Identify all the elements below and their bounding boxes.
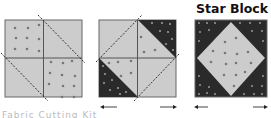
step-2-left-arrow — [100, 105, 117, 109]
quilt-diagram — [0, 0, 271, 118]
caption-text: Fabric Cutting Kit — [2, 110, 97, 118]
step-1-block — [1, 15, 85, 101]
step-3-block — [195, 20, 267, 97]
step-2-right-arrow — [160, 105, 177, 109]
step-2-block — [96, 15, 179, 101]
step-3-left-arrow — [194, 105, 208, 109]
step-3-right-arrow — [253, 105, 268, 109]
